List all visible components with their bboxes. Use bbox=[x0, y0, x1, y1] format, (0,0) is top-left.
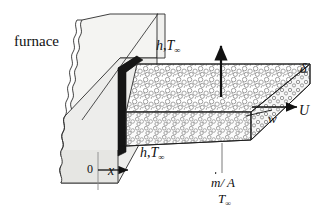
furnace-label: furnace bbox=[14, 34, 59, 49]
axis-x-label: x bbox=[108, 164, 114, 178]
top-convection-infinity: ∞ bbox=[174, 45, 180, 55]
porous-sheet bbox=[126, 64, 310, 146]
figure-canvas: furnace h,T∞ h,T∞ δ w U 0 x m/ A T∞ bbox=[0, 0, 324, 218]
bottom-convection-label: h,T∞ bbox=[140, 146, 164, 161]
top-convection-label: h,T∞ bbox=[156, 39, 180, 54]
mass-flow-rate-symbol: m bbox=[211, 176, 220, 189]
mass-flow-rate-letter: m bbox=[211, 175, 220, 190]
mass-flux-divisor: / A bbox=[220, 175, 235, 190]
bottom-convection-infinity: ∞ bbox=[158, 152, 164, 162]
mass-flux-label: m/ A bbox=[211, 176, 235, 189]
overdot-icon bbox=[215, 172, 217, 174]
top-convection-h: h bbox=[156, 38, 163, 53]
width-label-w: w bbox=[268, 112, 277, 125]
thickness-label-delta: δ bbox=[300, 62, 307, 76]
bottom-convection-h: h bbox=[140, 145, 147, 160]
velocity-label-U: U bbox=[299, 104, 309, 118]
origin-label: 0 bbox=[87, 163, 93, 175]
ambient-temperature-label: T∞ bbox=[218, 192, 231, 208]
ambient-temperature-infinity: ∞ bbox=[225, 199, 231, 208]
